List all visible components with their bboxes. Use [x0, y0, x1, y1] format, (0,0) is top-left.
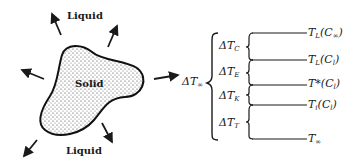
- diagram-canvas: [0, 0, 361, 167]
- level-liquidus-c-inf: TL(C∞): [308, 26, 343, 40]
- arrow-upper-right-icon: [108, 26, 117, 47]
- level-t-star-c-l: T*(Cl): [308, 77, 340, 91]
- delta-t-e-label: ΔTE: [219, 65, 239, 79]
- level-t-inf: T∞: [308, 132, 321, 146]
- level-interface-c-l: Ti(Cl): [308, 98, 337, 112]
- delta-t-c-label: ΔTC: [219, 39, 240, 53]
- solid-region: [40, 46, 143, 135]
- delta-t-t-label: ΔTT: [219, 116, 239, 130]
- solid-label: Solid: [75, 78, 103, 89]
- arrow-lower-left-icon: [24, 140, 37, 156]
- delta-t-k-label: ΔTK: [219, 89, 240, 103]
- level-lines: [252, 33, 307, 139]
- arrow-lower-right-icon: [102, 123, 112, 142]
- arrow-upper-left-icon: [52, 14, 61, 35]
- level-liquidus-c-l: TL(Cl): [308, 53, 339, 67]
- total-brace: [207, 33, 218, 140]
- liquid-top-label: Liquid: [67, 10, 103, 21]
- segment-braces: [246, 33, 253, 139]
- liquid-bottom-label: Liquid: [66, 145, 102, 156]
- total-undercooling-label: ΔT∞: [182, 75, 203, 89]
- arrow-left-icon: [22, 70, 44, 79]
- arrow-right-pointer-icon: [154, 75, 178, 79]
